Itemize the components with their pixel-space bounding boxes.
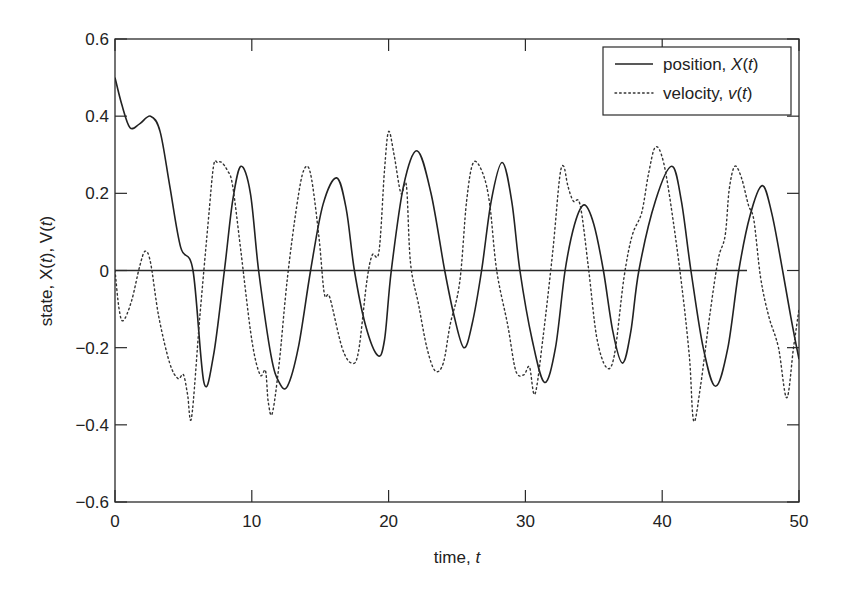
y-tick-label: 0.2 <box>85 184 109 203</box>
x-tick-label: 30 <box>516 512 535 531</box>
x-tick-label: 0 <box>110 512 119 531</box>
legend-label: position, X(t) <box>663 55 758 74</box>
legend-label: velocity, v(t) <box>663 84 752 103</box>
line-chart: −0.6−0.4−0.200.20.40.6 01020304050 time,… <box>0 0 841 597</box>
y-tick-label: 0.4 <box>85 107 109 126</box>
x-tick-label: 40 <box>653 512 672 531</box>
y-tick-label: −0.2 <box>75 339 109 358</box>
series-layer <box>115 78 799 422</box>
x-axis-label: time, t <box>434 548 482 567</box>
position-series <box>115 78 799 389</box>
velocity-series <box>115 131 799 421</box>
y-tick-label: 0 <box>100 262 109 281</box>
y-axis-label: state, X(t), V(t) <box>37 216 56 327</box>
x-tick-label: 50 <box>790 512 809 531</box>
y-tick-label: 0.6 <box>85 30 109 49</box>
x-tick-label: 20 <box>379 512 398 531</box>
y-tick-label: −0.4 <box>75 416 109 435</box>
legend: position, X(t)velocity, v(t) <box>603 47 791 115</box>
y-tick-label: −0.6 <box>75 493 109 512</box>
x-tick-label: 10 <box>242 512 261 531</box>
